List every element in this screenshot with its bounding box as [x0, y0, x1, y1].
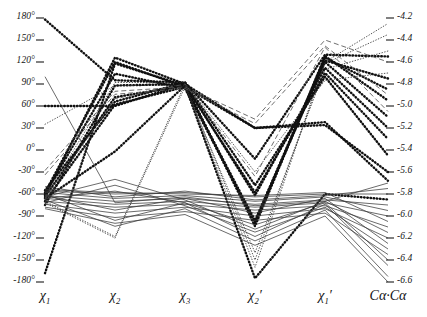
right-axis-tick-label: -5.8 — [397, 187, 412, 197]
left-axis-tick-label: 180° — [1, 11, 35, 21]
right-axis-tick-label: -5.2 — [397, 121, 412, 131]
right-axis-tick-label: -4.6 — [397, 55, 412, 65]
right-axis-tick-label: -6.4 — [397, 253, 412, 263]
x-axis-label-chi1: χ1 — [15, 288, 75, 306]
right-axis-tick-label: -6.6 — [397, 275, 412, 285]
left-axis-tick-label: 120° — [1, 55, 35, 65]
left-axis-tick-label: -150° — [1, 253, 35, 263]
x-axis-label-chi3: χ3 — [155, 288, 215, 306]
x-axis-label-chi2p: χ2′ — [225, 288, 285, 306]
right-axis-tick-label: -5.6 — [397, 165, 412, 175]
left-axis-tick-label: -30° — [1, 165, 35, 175]
right-axis-tick-label: -4.2 — [397, 11, 412, 21]
left-axis-tick-label: -60° — [1, 187, 35, 197]
left-axis-tick-label: 30° — [1, 121, 35, 131]
data-series-line — [45, 20, 388, 159]
data-series-line — [45, 58, 388, 222]
right-axis-tick-label: -4.8 — [397, 77, 412, 87]
left-axis-tick-label: 0° — [1, 143, 35, 153]
right-axis-tick-label: -6.0 — [397, 209, 412, 219]
x-axis-label-chi2: χ2 — [85, 288, 145, 306]
x-axis-label-cacа: Cα·Cα — [358, 288, 418, 304]
left-axis-tick-label: 90° — [1, 77, 35, 87]
parallel-coordinates-chart: 180°150°120°90°60°30°0°-30°-60°-90°-120°… — [0, 0, 427, 317]
left-axis-tick-label: 150° — [1, 33, 35, 43]
left-axis-tick-label: -90° — [1, 209, 35, 219]
right-axis-tick-label: -6.2 — [397, 231, 412, 241]
data-series-line — [45, 68, 388, 205]
x-axis-label-chi1p: χ1′ — [295, 288, 355, 306]
data-series-line — [45, 86, 388, 279]
chart-canvas — [0, 0, 427, 317]
data-series-line — [45, 209, 388, 282]
left-axis-tick-label: -180° — [1, 275, 35, 285]
right-axis-tick-label: -4.4 — [397, 33, 412, 43]
right-axis-tick-label: -5.0 — [397, 99, 412, 109]
data-series-line — [45, 191, 388, 260]
left-axis-tick-label: 60° — [1, 99, 35, 109]
right-axis-tick-label: -5.4 — [397, 143, 412, 153]
left-axis-tick-label: -120° — [1, 231, 35, 241]
